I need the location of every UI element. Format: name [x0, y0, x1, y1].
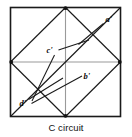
- vertex-label-a: a': [106, 14, 113, 24]
- diamond-edge-right-bottom: [66, 62, 121, 117]
- circuit-diagram: a' c' b' d': [0, 0, 132, 137]
- figure-container: a' c' b' d' C circuit: [0, 0, 132, 137]
- node-top-mid: [64, 6, 68, 10]
- node-left-mid: [9, 60, 13, 64]
- figure-caption: C circuit: [0, 122, 132, 133]
- leader-line-c: [59, 40, 90, 50]
- vertex-label-d: d': [20, 98, 27, 108]
- node-bottom-mid: [64, 114, 68, 118]
- vertex-label-c: c': [47, 45, 54, 55]
- node-right-mid: [118, 60, 122, 64]
- vertex-label-b: b': [84, 71, 91, 81]
- diamond-edge-left-top: [11, 8, 66, 63]
